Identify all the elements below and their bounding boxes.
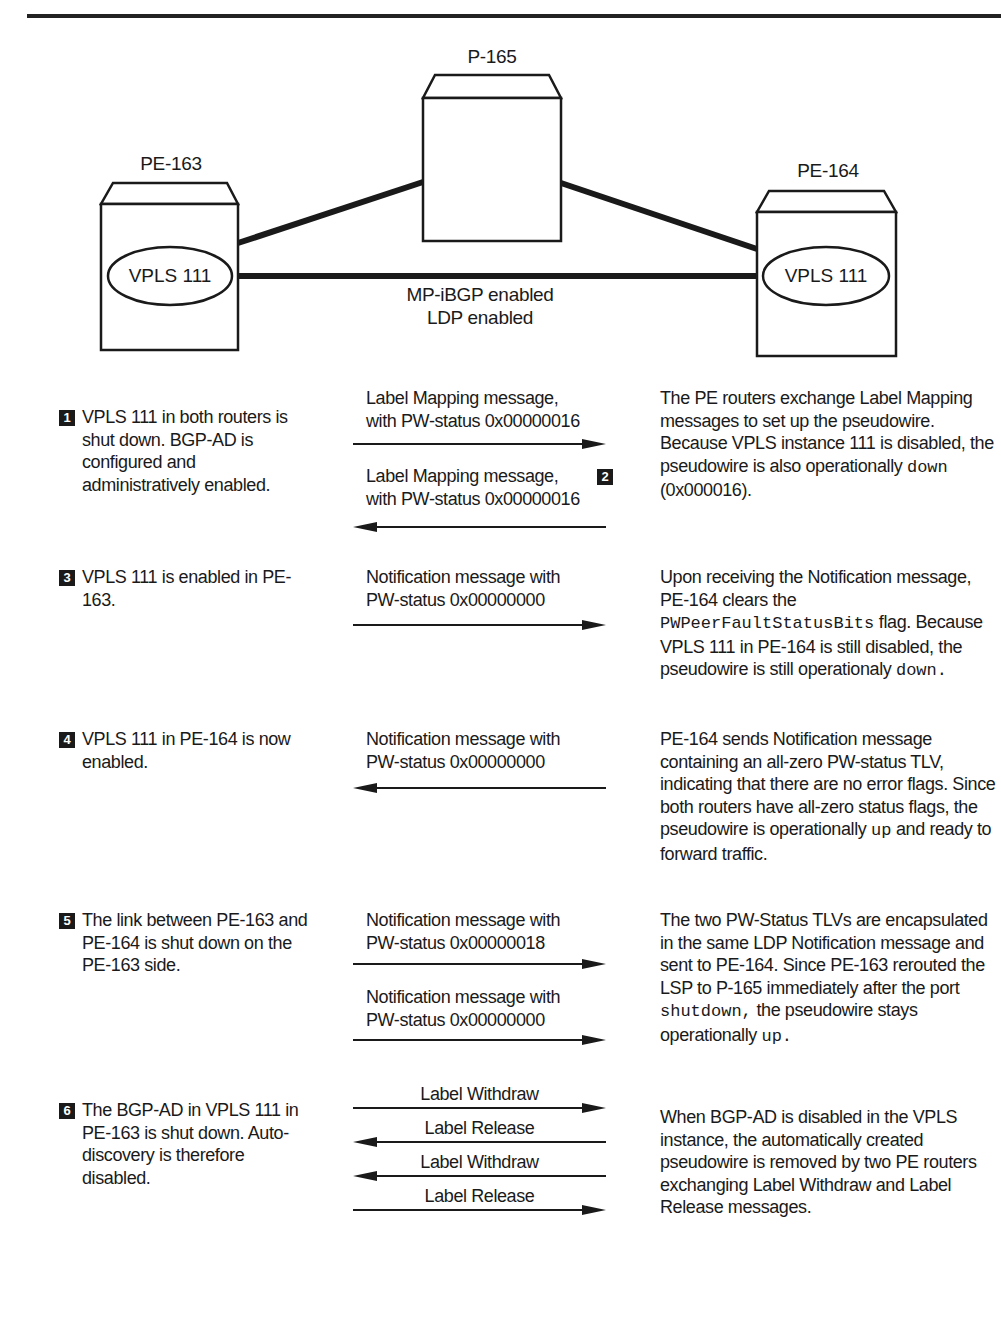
step-3-message-1: Notification message with PW-status 0x00…: [366, 566, 616, 611]
step-1-message-2: Label Mapping message, with PW-status 0x…: [366, 465, 616, 510]
arrow-right-icon: [350, 1203, 610, 1217]
step-6-description: When BGP-AD is disabled in the VPLS inst…: [660, 1106, 1000, 1219]
step-6-text: The BGP-AD in VPLS 111 in PE-163 is shut…: [82, 1099, 312, 1189]
arrow-right-icon: [350, 1101, 610, 1115]
arrow-left-icon: [350, 1169, 610, 1183]
link-label-mpibgp: MP-iBGP enabled: [406, 283, 553, 306]
router-p165-icon: [423, 75, 561, 241]
step-3-description: Upon receiving the Notification message,…: [660, 566, 1000, 683]
node-label-pe163: PE-163: [140, 153, 202, 175]
step-1-message-1: Label Mapping message, with PW-status 0x…: [366, 387, 616, 432]
arrow-right-icon: [350, 618, 610, 632]
step-1-text: VPLS 111 in both routers is shut down. B…: [82, 406, 312, 496]
step-badge-1: 1: [59, 410, 75, 426]
step-badge-2: 2: [597, 469, 613, 485]
step-1-description: The PE routers exchange Label Mapping me…: [660, 387, 1000, 502]
link-label-ldp: LDP enabled: [406, 306, 553, 329]
arrow-left-icon: [350, 1135, 610, 1149]
step-5-message-2: Notification message with PW-status 0x00…: [366, 986, 616, 1031]
step-4-description: PE-164 sends Notification message contai…: [660, 728, 1000, 865]
link-label-direct: MP-iBGP enabled LDP enabled: [406, 283, 553, 329]
step-badge-5: 5: [59, 913, 75, 929]
step-5-text: The link between PE-163 and PE-164 is sh…: [82, 909, 312, 977]
arrow-right-icon: [350, 437, 610, 451]
step-5-description: The two PW-Status TLVs are encapsulated …: [660, 909, 1000, 1048]
vpls-label-pe163: VPLS 111: [129, 265, 212, 287]
arrow-right-icon: [350, 1033, 610, 1047]
vpls-label-pe164: VPLS 111: [785, 265, 868, 287]
arrow-left-icon: [350, 520, 610, 534]
step-3-text: VPLS 111 is enabled in PE-163.: [82, 566, 312, 611]
node-label-p165: P-165: [467, 46, 516, 68]
step-badge-4: 4: [59, 732, 75, 748]
step-5-message-1: Notification message with PW-status 0x00…: [366, 909, 616, 954]
step-4-message-1: Notification message with PW-status 0x00…: [366, 728, 616, 773]
step-badge-3: 3: [59, 570, 75, 586]
link-p165-pe164: [561, 183, 757, 249]
arrow-right-icon: [350, 957, 610, 971]
step-badge-6: 6: [59, 1103, 75, 1119]
arrow-left-icon: [350, 781, 610, 795]
node-label-pe164: PE-164: [797, 160, 859, 182]
link-pe163-p165: [238, 182, 423, 243]
step-4-text: VPLS 111 in PE-164 is now enabled.: [82, 728, 312, 773]
